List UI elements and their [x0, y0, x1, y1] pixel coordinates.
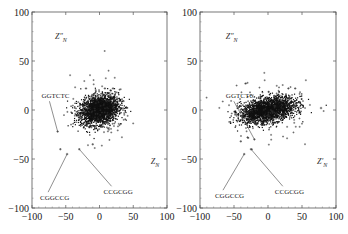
y-axis-title: Z″N — [55, 32, 68, 43]
x-tick-label: 0 — [97, 211, 102, 222]
y-axis-title: Z″N — [226, 32, 239, 43]
x-axis-title: Z′N — [317, 157, 328, 168]
scatter-plot-left: −100−50050100100500−50−100GGTCTCCGGCCGCC… — [8, 7, 174, 223]
y-tick-label: 50 — [187, 56, 197, 67]
y-tick-label: 100 — [14, 7, 29, 18]
x-tick-label: −50 — [226, 211, 242, 222]
scatter-plot-right: −100−50050100100500−50−100GGTCTCCGGCCGCC… — [176, 7, 343, 223]
annotation-label: CGGCCG — [215, 192, 244, 200]
figure: −100−50050100100500−50−100GGTCTCCGGCCGCC… — [0, 0, 348, 234]
y-tick-label: 50 — [19, 56, 29, 67]
x-tick-label: 100 — [160, 211, 175, 222]
x-tick-label: 50 — [297, 211, 307, 222]
y-tick-label: −50 — [181, 154, 197, 165]
y-tick-label: 0 — [192, 105, 197, 116]
annotation-label: CGGCCG — [40, 194, 69, 202]
y-tick-label: −100 — [8, 203, 29, 214]
annotation-label: CCGCGG — [275, 188, 304, 196]
y-tick-label: −100 — [176, 203, 197, 214]
y-tick-label: 100 — [182, 7, 197, 18]
x-tick-label: 0 — [266, 211, 271, 222]
annotation-label: GGTCTC — [41, 92, 69, 100]
x-tick-label: −50 — [58, 211, 74, 222]
x-tick-label: 50 — [128, 211, 138, 222]
y-tick-label: −50 — [13, 154, 29, 165]
annotation-label: CCGCGG — [104, 188, 133, 196]
y-tick-label: 0 — [24, 105, 29, 116]
annotation-label: GGTCTC — [226, 92, 254, 100]
x-axis-title: ZN — [151, 157, 160, 168]
x-tick-label: 100 — [329, 211, 344, 222]
